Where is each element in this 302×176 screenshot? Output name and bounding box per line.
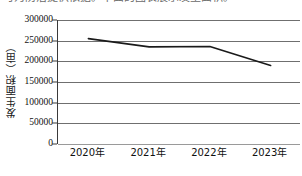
plot-area xyxy=(57,20,300,144)
y-axis-tick-label: 200000 xyxy=(25,57,54,67)
y-axis-tick-label: 300000 xyxy=(25,15,54,25)
series-polyline xyxy=(88,39,270,66)
y-axis-tick-label: 100000 xyxy=(25,98,54,108)
line-chart-figure: 发生面积（亩） 05000010000015000020000025000030… xyxy=(0,0,302,176)
x-axis-tick-label: 2020年 xyxy=(70,147,105,159)
x-axis-tick-label: 2022年 xyxy=(191,147,226,159)
x-axis-tick-labels: 2020年2021年2022年2023年 xyxy=(57,147,300,163)
x-axis-tick-label: 2021年 xyxy=(130,147,165,159)
x-axis-tick-label: 2023年 xyxy=(252,147,287,159)
y-axis-tick-label: 150000 xyxy=(25,77,54,87)
y-axis-tick-label: 250000 xyxy=(25,36,54,46)
gridline xyxy=(58,144,300,145)
series-line xyxy=(58,20,301,144)
y-axis-tick-label: 50000 xyxy=(29,119,53,129)
y-axis-tick-labels: 050000100000150000200000250000300000 xyxy=(14,20,55,144)
